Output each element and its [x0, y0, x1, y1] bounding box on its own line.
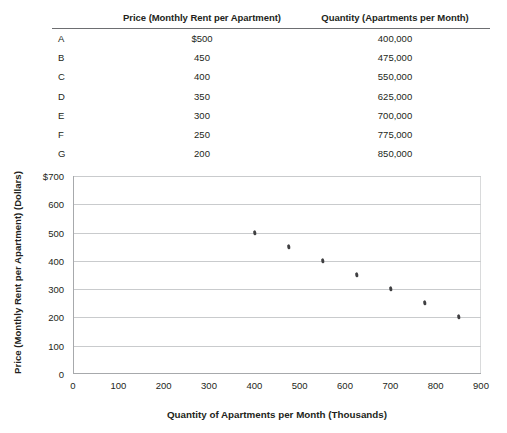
row-quantity: 850,000 [300, 144, 490, 163]
column-header-label [52, 12, 104, 29]
row-price: $500 [104, 29, 300, 49]
table-row: F 250 775,000 [52, 125, 490, 144]
table-row: B 450 475,000 [52, 48, 490, 67]
plot-area [73, 176, 481, 374]
plot-right-border [480, 176, 481, 373]
demand-schedule-table: Price (Monthly Rent per Apartment) Quant… [52, 12, 490, 163]
table: Price (Monthly Rent per Apartment) Quant… [52, 12, 490, 163]
x-tick-label: 100 [110, 380, 126, 391]
y-tick-label: 600 [48, 199, 64, 210]
data-point [355, 272, 359, 278]
gridline [74, 261, 481, 262]
x-tick-label: 0 [70, 380, 75, 391]
x-tick-label: 700 [382, 380, 398, 391]
table-row: A $500 400,000 [52, 29, 490, 49]
y-tick-label: 100 [48, 340, 64, 351]
table-body: A $500 400,000 B 450 475,000 C 400 550,0… [52, 29, 490, 164]
row-quantity: 625,000 [300, 87, 490, 106]
row-label: E [52, 106, 104, 125]
table-row: E 300 700,000 [52, 106, 490, 125]
row-label: D [52, 87, 104, 106]
gridline [74, 317, 481, 318]
x-tick-label: 300 [201, 380, 217, 391]
row-quantity: 550,000 [300, 67, 490, 86]
gridline [74, 233, 481, 234]
y-tick-label: 400 [48, 255, 64, 266]
gridline [74, 176, 481, 177]
table-row: D 350 625,000 [52, 87, 490, 106]
gridline [74, 204, 481, 205]
row-price: 200 [104, 144, 300, 163]
y-tick-label: 300 [48, 284, 64, 295]
row-price: 300 [104, 106, 300, 125]
row-label: C [52, 67, 104, 86]
gridline [74, 289, 481, 290]
table-row: G 200 850,000 [52, 144, 490, 163]
row-label: G [52, 144, 104, 163]
gridline [74, 346, 481, 347]
row-quantity: 775,000 [300, 125, 490, 144]
x-tick-label: 900 [473, 380, 489, 391]
x-tick-label: 800 [428, 380, 444, 391]
row-label: A [52, 29, 104, 49]
column-header-price: Price (Monthly Rent per Apartment) [104, 12, 300, 29]
row-quantity: 475,000 [300, 48, 490, 67]
demand-curve-chart: Price (Monthly Rent per Apartment) (Doll… [0, 163, 507, 433]
row-price: 350 [104, 87, 300, 106]
x-tick-label: 600 [337, 380, 353, 391]
row-label: F [52, 125, 104, 144]
row-quantity: 400,000 [300, 29, 490, 49]
column-header-quantity: Quantity (Apartments per Month) [300, 12, 490, 29]
x-tick-label: 400 [246, 380, 262, 391]
row-price: 450 [104, 48, 300, 67]
data-point [287, 244, 291, 250]
x-axis-title: Quantity of Apartments per Month (Thousa… [73, 409, 481, 420]
y-axis-tick-labels: $7006005004003002001000 [0, 163, 68, 433]
x-tick-label: 500 [292, 380, 308, 391]
y-tick-label: 500 [48, 227, 64, 238]
row-price: 400 [104, 67, 300, 86]
y-tick-label: 0 [59, 369, 64, 380]
data-point [423, 300, 427, 306]
y-tick-label: $700 [43, 171, 64, 182]
table-row: C 400 550,000 [52, 67, 490, 86]
row-price: 250 [104, 125, 300, 144]
row-label: B [52, 48, 104, 67]
x-tick-label: 200 [156, 380, 172, 391]
row-quantity: 700,000 [300, 106, 490, 125]
y-tick-label: 200 [48, 312, 64, 323]
table-header-row: Price (Monthly Rent per Apartment) Quant… [52, 12, 490, 29]
